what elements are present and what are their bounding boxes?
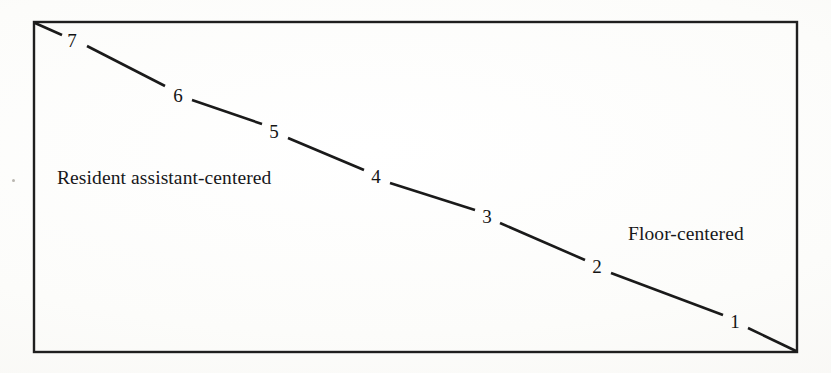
scale-point-7: 7	[67, 31, 77, 50]
figure-canvas: 7 6 5 4 3 2 1 Resident assistant-centere…	[0, 0, 831, 373]
scale-segment-7-6	[87, 46, 165, 86]
scale-segment-7-start	[35, 23, 62, 35]
scale-point-1: 1	[730, 312, 740, 331]
scale-segment-5-4	[288, 138, 364, 170]
scale-segment-3-2	[500, 223, 585, 260]
scale-segment-2-1	[611, 273, 723, 315]
pole-label-floor-centered: Floor-centered	[628, 224, 744, 244]
scale-point-4: 4	[371, 167, 381, 186]
scale-point-3: 3	[482, 207, 492, 226]
scale-segment-1-end	[748, 328, 796, 351]
scale-point-6: 6	[173, 86, 183, 105]
scale-point-2: 2	[592, 257, 602, 276]
scale-segment-4-3	[390, 183, 475, 210]
pole-label-resident-assistant-centered: Resident assistant-centered	[57, 168, 271, 188]
scale-segment-6-5	[192, 100, 262, 124]
scale-point-5: 5	[269, 122, 279, 141]
